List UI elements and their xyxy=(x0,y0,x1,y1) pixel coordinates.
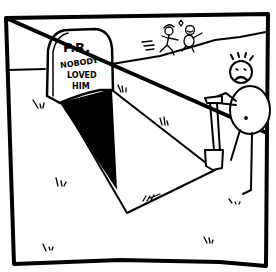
sad-stick-figure xyxy=(216,53,270,194)
epitaph-line-nobody: NOBODY xyxy=(60,56,99,70)
epitaph-line-him: HIM xyxy=(72,82,90,91)
panel-border xyxy=(6,14,268,266)
grave-shadow xyxy=(60,90,117,190)
happy-couple-running xyxy=(142,20,202,55)
comic-panel: P.R. NOBODY LOVED HIM xyxy=(0,0,276,272)
epitaph-initials: P.R. xyxy=(63,40,90,55)
epitaph-line-loved: LOVED xyxy=(67,71,97,80)
